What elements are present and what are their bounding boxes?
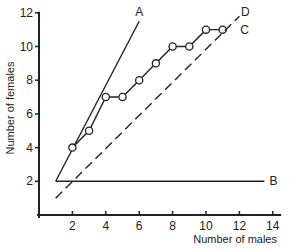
data-point <box>169 43 176 50</box>
y-axis-title: Number of females <box>4 61 16 154</box>
data-point <box>86 127 93 134</box>
y-tick-label: 12 <box>20 6 34 20</box>
series: ABCD <box>56 5 278 198</box>
data-point <box>186 43 193 50</box>
series-label-d: D <box>241 5 250 19</box>
series-label-a: A <box>135 5 143 19</box>
x-tick-label: 14 <box>266 219 280 233</box>
series-line-d <box>56 16 240 198</box>
data-point <box>102 93 109 100</box>
series-line-c <box>72 30 222 148</box>
y-tick-label: 8 <box>26 73 33 87</box>
x-tick-label: 4 <box>102 219 109 233</box>
x-tick-label: 12 <box>233 219 247 233</box>
chart: 246810121424681012 ABCD Number of males … <box>0 0 290 251</box>
data-point <box>152 60 159 67</box>
y-tick-label: 6 <box>26 107 33 121</box>
data-point <box>69 144 76 151</box>
x-tick-label: 6 <box>136 219 143 233</box>
data-point <box>136 77 143 84</box>
y-tick-label: 2 <box>26 174 33 188</box>
data-point <box>119 93 126 100</box>
axes <box>37 12 281 218</box>
series-label-c: C <box>240 23 249 37</box>
y-tick-label: 10 <box>20 40 34 54</box>
y-tick-label: 4 <box>26 141 33 155</box>
x-tick-label: 2 <box>69 219 76 233</box>
series-label-b: B <box>269 174 277 188</box>
ticks: 246810121424681012 <box>20 6 280 233</box>
data-point <box>202 26 209 33</box>
x-tick-label: 8 <box>169 219 176 233</box>
x-axis-title: Number of males <box>193 233 277 245</box>
x-tick-label: 10 <box>199 219 213 233</box>
